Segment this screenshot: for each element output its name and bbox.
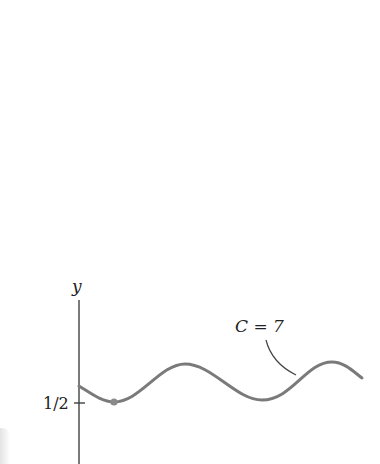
leader-line xyxy=(266,340,296,375)
solution-curve xyxy=(79,362,362,402)
curve-label: C = 7 xyxy=(235,316,284,336)
marked-point xyxy=(110,398,117,405)
y-axis-label: y xyxy=(71,276,82,296)
y-tick-label-half: 1/2 xyxy=(43,394,69,413)
solution-curve-plot: y 1/2 C = 7 xyxy=(0,0,380,464)
